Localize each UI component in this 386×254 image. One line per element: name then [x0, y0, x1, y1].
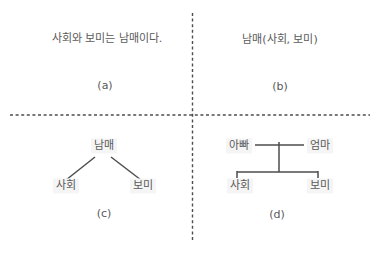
panel-a-caption: (a): [97, 79, 112, 92]
panel-d-caption: (d): [269, 208, 285, 221]
tree-c-left-child-node: 사회: [53, 178, 79, 193]
statement-b-notation: 남매(사회, 보미): [242, 33, 318, 46]
tree-d-father-node: 아빠: [226, 138, 252, 153]
tree-c-right-edge: [111, 157, 141, 180]
statement-a-sentence: 사회와 보미는 남매이다.: [52, 32, 163, 45]
tree-c-left-edge: [66, 157, 95, 180]
panel-c-caption: (c): [97, 207, 112, 220]
figure-canvas: 사회와 보미는 남매이다. (a) 남매(사회, 보미) (b) 남매 사회 보…: [0, 0, 386, 254]
tree-d-left-child-node: 사회: [227, 178, 253, 193]
panel-b-caption: (b): [272, 80, 288, 93]
tree-c-right-child-node: 보미: [130, 178, 156, 193]
tree-d-mother-node: 엄마: [307, 138, 333, 153]
tree-d-right-child-node: 보미: [307, 178, 333, 193]
tree-c-root-node: 남매: [91, 138, 117, 153]
